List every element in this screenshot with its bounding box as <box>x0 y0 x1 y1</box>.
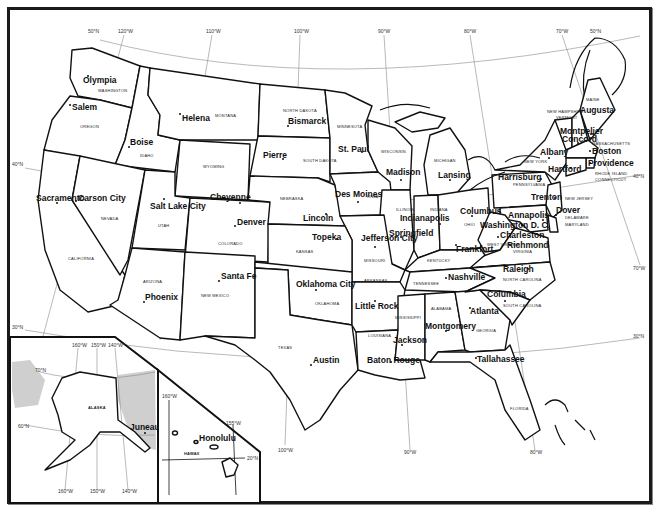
island-kauai[interactable] <box>173 431 178 435</box>
state-label-north-carolina: NORTH CAROLINA <box>503 277 542 282</box>
label-50n-left: 50°N <box>88 28 100 34</box>
alaska-inset: 160°W 150°W 140°W 160°W 150°W 140°W 70°N… <box>10 337 160 503</box>
state-label-maine: MAINE <box>586 97 600 102</box>
state-label-arkansas: ARKANSAS <box>364 278 388 283</box>
capital-baton-rouge[interactable]: Baton Rouge <box>367 355 420 365</box>
state-label-arizona: ARIZONA <box>143 279 162 284</box>
capital-austin[interactable]: Austin <box>313 355 339 365</box>
capital-harrisburg[interactable]: Harrisburg <box>498 172 541 182</box>
state-mississippi[interactable] <box>395 294 425 360</box>
label-90w-bottom: 90°W <box>404 449 417 455</box>
capital-topeka[interactable]: Topeka <box>312 232 341 242</box>
capital-little-rock[interactable]: Little Rock <box>355 301 399 311</box>
state-label-mississippi: MISSISSIPPI <box>395 315 421 320</box>
capital-phoenix[interactable]: Phoenix <box>145 292 178 302</box>
island-oahu[interactable] <box>194 441 198 444</box>
capital-helena[interactable]: Helena <box>182 113 210 123</box>
capital-oklahoma-city[interactable]: Oklahoma City <box>296 279 356 289</box>
state-montana[interactable] <box>148 68 260 140</box>
capital-pierre[interactable]: Pierre <box>263 150 287 160</box>
state-michigan-up[interactable] <box>395 112 445 132</box>
label-80w: 80°W <box>464 28 477 34</box>
hawaii-label-160w: 160°W <box>162 393 177 399</box>
capital-salem[interactable]: Salem <box>72 102 97 112</box>
label-100w-bottom: 100°W <box>278 447 293 453</box>
capital-columbia[interactable]: Columbia <box>487 289 526 299</box>
label-110w: 110°W <box>206 28 221 34</box>
label-80w-bottom: 80°W <box>530 449 543 455</box>
hawaii-inset: 160°W 155°W 20°N HAWAII Honolulu <box>158 370 260 503</box>
capital-juneau[interactable]: Juneau <box>130 422 160 432</box>
capital-boise[interactable]: Boise <box>130 137 153 147</box>
capital-jackson[interactable]: Jackson <box>393 335 427 345</box>
state-wyoming[interactable] <box>175 140 250 200</box>
state-label-new-mexico: NEW MEXICO <box>201 293 229 298</box>
capital-annapolis[interactable]: Annapolis <box>508 210 549 220</box>
state-label-kansas: KANSAS <box>296 249 314 254</box>
state-label-minnesota: MINNESOTA <box>337 124 362 129</box>
capital-st-paul[interactable]: St. Paul <box>338 144 369 154</box>
state-label-idaho: IDAHO <box>140 153 154 158</box>
state-label-maryland: MARYLAND <box>565 222 589 227</box>
capital-bismarck[interactable]: Bismarck <box>288 116 327 126</box>
capital-concord[interactable]: Concord <box>562 134 597 144</box>
capital-nashville[interactable]: Nashville <box>448 272 486 282</box>
capital-trenton[interactable]: Trenton <box>531 192 562 202</box>
capital-frankfort[interactable]: Frankfort <box>456 244 493 254</box>
state-label-nebraska: NEBRASKA <box>280 196 304 201</box>
label-50n-right: 50°N <box>590 28 602 34</box>
capital-cheyenne[interactable]: Cheyenne <box>210 192 251 202</box>
capital-lansing[interactable]: Lansing <box>438 170 471 180</box>
bahamas-islands <box>545 400 595 445</box>
alaska-label-60n: 60°N <box>18 423 30 429</box>
state-label-ohio: OHIO <box>464 222 475 227</box>
island-maui[interactable] <box>210 445 218 449</box>
state-label-florida: FLORIDA <box>510 406 529 411</box>
state-label-oklahoma: OKLAHOMA <box>315 301 339 306</box>
capital-tallahassee[interactable]: Tallahassee <box>477 354 525 364</box>
capital-olympia[interactable]: Olympia <box>83 75 117 85</box>
capital-albany[interactable]: Albany <box>540 147 569 157</box>
lake-superior-outline <box>380 104 430 110</box>
label-40n-left: 40°N <box>12 161 24 167</box>
alaska-label-150w-top: 150°W <box>91 342 106 348</box>
capital-columbus[interactable]: Columbus <box>460 206 502 216</box>
capital-denver[interactable]: Denver <box>237 217 267 227</box>
state-label-wyoming: WYOMING <box>203 164 224 169</box>
capital-boston[interactable]: Boston <box>592 146 621 156</box>
capital-richmond[interactable]: Richmond <box>507 240 549 250</box>
label-30n-right: 30°N <box>633 333 645 339</box>
state-indiana[interactable] <box>414 195 440 258</box>
state-label-south-carolina: SOUTH CAROLINA <box>503 303 541 308</box>
capital-providence[interactable]: Providence <box>588 158 634 168</box>
capital-salt-lake-city[interactable]: Salt Lake City <box>150 201 206 211</box>
state-label-oregon: OREGON <box>80 124 99 129</box>
capital-dover[interactable]: Dover <box>556 205 581 215</box>
capital-jefferson-city[interactable]: Jefferson City <box>361 233 418 243</box>
label-30n-left: 30°N <box>12 324 24 330</box>
capital-charleston[interactable]: Charleston <box>500 230 544 240</box>
capital-honolulu[interactable]: Honolulu <box>199 433 236 443</box>
state-label-kentucky: KENTUCKY <box>427 258 451 263</box>
capital-montgomery[interactable]: Montgomery <box>425 321 476 331</box>
capital-indianapolis[interactable]: Indianapolis <box>400 213 450 223</box>
state-label-michigan: MICHIGAN <box>434 158 456 163</box>
capital-hartford[interactable]: Hartford <box>548 164 582 174</box>
state-label-connecticut: CONNECTICUT <box>595 177 627 182</box>
hawaii-label-20n: 20°N <box>247 455 259 461</box>
us-map: 50°N 120°W 110°W 100°W 90°W 80°W 70°W 50… <box>0 0 659 511</box>
capital-atlanta[interactable]: Atlanta <box>470 306 499 316</box>
capital-washington-dc[interactable]: Washington D. C. <box>480 220 550 230</box>
state-label-illinois: ILLINOIS <box>396 207 414 212</box>
state-label-vermont: VERMONT <box>556 115 578 120</box>
capital-lincoln[interactable]: Lincoln <box>303 213 333 223</box>
capital-des-moines[interactable]: Des Moines <box>335 189 383 199</box>
capital-carson-city[interactable]: Carson City <box>78 193 126 203</box>
state-label-wisconsin: WISCONSIN <box>381 149 406 154</box>
capital-santa-fe[interactable]: Santa Fe <box>221 271 257 281</box>
state-label-indiana: INDIANA <box>430 207 448 212</box>
capital-madison[interactable]: Madison <box>386 167 420 177</box>
state-label-new-york: NEW YORK <box>524 159 547 164</box>
capital-augusta[interactable]: Augusta <box>580 105 614 115</box>
capital-raleigh[interactable]: Raleigh <box>503 264 534 274</box>
